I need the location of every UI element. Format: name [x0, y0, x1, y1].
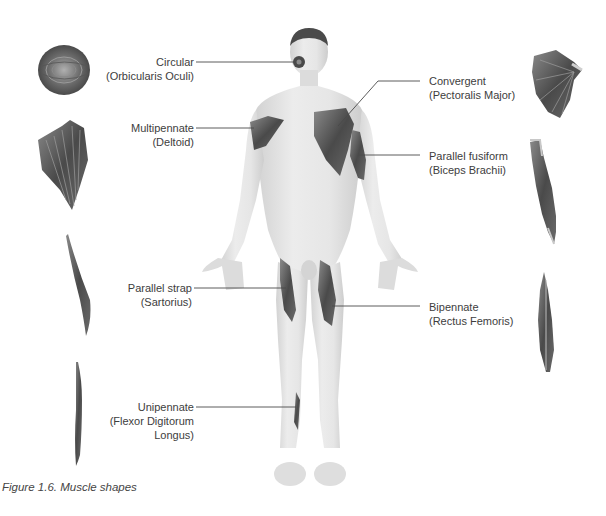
label-bipennate: Bipennate (Rectus Femoris) — [429, 300, 513, 328]
specimen-unipennate-muscle — [75, 362, 82, 466]
label-convergent-type: Convergent — [429, 74, 515, 88]
label-circular-type: Circular — [96, 55, 194, 69]
label-multipennate-example: (Deltoid) — [96, 135, 194, 149]
label-circular: Circular (Orbicularis Oculi) — [96, 55, 194, 83]
label-unipennate-type: Unipennate — [96, 400, 194, 414]
label-bipennate-type: Bipennate — [429, 300, 513, 314]
label-bipennate-example: (Rectus Femoris) — [429, 314, 513, 328]
label-unipennate: Unipennate (Flexor Digitorum Longus) — [96, 400, 194, 442]
label-parallel-strap-type: Parallel strap — [96, 281, 192, 295]
human-figure — [202, 28, 418, 486]
specimen-circular-muscle — [38, 45, 90, 95]
figure-caption: Figure 1.6. Muscle shapes — [2, 481, 137, 493]
specimen-convergent-muscle — [532, 50, 582, 118]
specimen-bipennate-muscle — [538, 272, 554, 372]
label-parallel-fusiform-type: Parallel fusiform — [429, 149, 508, 163]
specimen-multipennate-muscle — [38, 120, 88, 210]
label-multipennate-type: Multipennate — [96, 121, 194, 135]
label-unipennate-example-line1: (Flexor Digitorum — [96, 414, 194, 428]
label-parallel-fusiform: Parallel fusiform (Biceps Brachii) — [429, 149, 508, 177]
label-convergent: Convergent (Pectoralis Major) — [429, 74, 515, 102]
specimen-parallel-strap-muscle — [66, 234, 91, 336]
label-parallel-fusiform-example: (Biceps Brachii) — [429, 163, 508, 177]
label-convergent-example: (Pectoralis Major) — [429, 88, 515, 102]
label-unipennate-example-line2: Longus) — [96, 428, 194, 442]
muscle-shapes-figure: Circular (Orbicularis Oculi) Multipennat… — [0, 0, 606, 516]
label-parallel-strap-example: (Sartorius) — [96, 295, 192, 309]
label-parallel-strap: Parallel strap (Sartorius) — [96, 281, 192, 309]
specimen-parallel-fusiform-muscle — [530, 140, 556, 244]
label-circular-example: (Orbicularis Oculi) — [96, 69, 194, 83]
label-multipennate: Multipennate (Deltoid) — [96, 121, 194, 149]
